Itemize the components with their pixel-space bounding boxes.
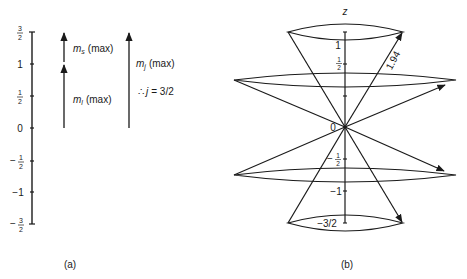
svg-text:2: 2 (19, 226, 23, 233)
svg-text:−: − (10, 155, 16, 166)
angular-momentum-diagram: 3 2 1 1 2 0 − 1 2 −1 − 3 2 ms(max) (0, 0, 467, 279)
cone-generators (234, 32, 345, 223)
panel-a: 3 2 1 1 2 0 − 1 2 −1 − 3 2 ms(max) (10, 25, 174, 270)
vector-top (345, 33, 402, 127)
panel-b (234, 24, 456, 231)
svg-text:1: 1 (18, 89, 22, 96)
svg-text:3: 3 (18, 25, 22, 32)
vector-bottom (345, 127, 402, 222)
ml-label: ml(max) (73, 94, 111, 106)
svg-text:−: − (10, 218, 16, 229)
origin-dot (343, 125, 346, 128)
z-axis-label: z (342, 6, 348, 17)
svg-text:−1: −1 (12, 187, 24, 198)
svg-text:2: 2 (18, 98, 22, 105)
svg-text:1: 1 (19, 154, 23, 161)
vector-length-label: 1.94 (383, 49, 402, 72)
ms-label: ms(max) (73, 43, 113, 55)
svg-text:1: 1 (17, 59, 23, 70)
svg-text:1: 1 (336, 152, 340, 159)
vector-lower (345, 127, 444, 171)
svg-text:0: 0 (17, 123, 23, 134)
caption-b: (b) (341, 259, 353, 270)
svg-text:2: 2 (18, 34, 22, 41)
mj-label: mj(max) (136, 58, 174, 71)
svg-text:−: − (327, 153, 333, 164)
tick-label-neg-1: −1 (330, 186, 342, 197)
tick-label-neg-3-2: −3/2 (317, 218, 337, 229)
svg-text:2: 2 (336, 160, 340, 167)
svg-text:2: 2 (19, 163, 23, 170)
caption-a: (a) (64, 259, 76, 270)
tick-label-1: 1 (335, 40, 341, 51)
svg-text:1: 1 (337, 56, 341, 63)
j-value-label: ∴j= 3/2 (138, 86, 174, 97)
origin-label: 0 (330, 122, 336, 133)
vector-upper (345, 85, 445, 127)
svg-text:3: 3 (19, 217, 23, 224)
svg-text:2: 2 (337, 64, 341, 71)
axis-tick-labels: 3 2 1 1 2 0 − 1 2 −1 − 3 2 (10, 25, 24, 233)
